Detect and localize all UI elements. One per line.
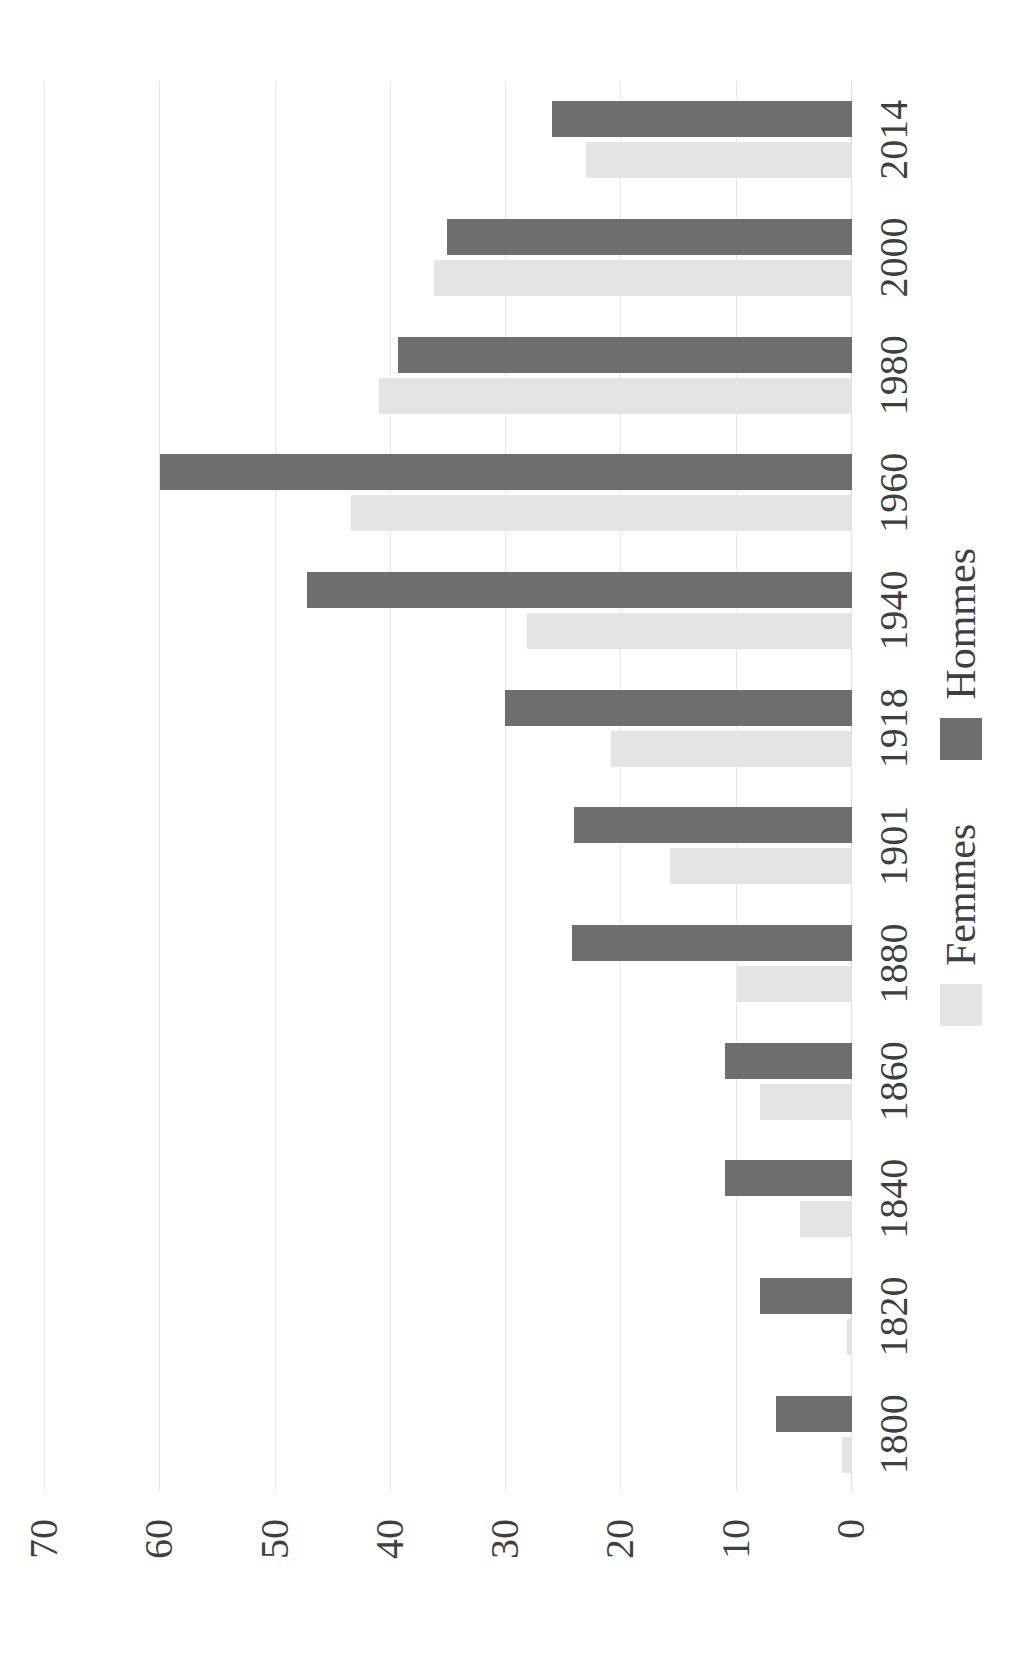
category-axis-label-1840: 1840 xyxy=(874,1140,914,1258)
category-axis-label-1820: 1820 xyxy=(874,1258,914,1376)
bar-hommes-1860 xyxy=(725,1043,852,1079)
bar-femmes-1820 xyxy=(847,1319,852,1355)
bar-hommes-1820 xyxy=(760,1278,852,1314)
bar-hommes-1960 xyxy=(160,454,852,490)
category-axis-label-1860: 1860 xyxy=(874,1022,914,1140)
bar-femmes-1940 xyxy=(527,613,852,649)
bar-group-2014: 2014 xyxy=(45,81,852,199)
bar-femmes-1880 xyxy=(737,966,852,1002)
value-axis-tick-label: 0 xyxy=(831,1519,871,1539)
bar-hommes-1980 xyxy=(398,337,852,373)
bar-group-1901: 1901 xyxy=(45,787,852,905)
category-axis-label-1918: 1918 xyxy=(874,669,914,787)
bar-hommes-1800 xyxy=(776,1396,852,1432)
bar-hommes-1940 xyxy=(307,572,852,608)
bar-femmes-1840 xyxy=(800,1202,852,1238)
bar-hommes-1918 xyxy=(505,690,852,726)
bar-femmes-1860 xyxy=(760,1084,852,1120)
chart-rotated-canvas: 706050403020100 180018201840186018801901… xyxy=(0,0,1034,1653)
legend-label: Hommes xyxy=(940,548,982,700)
value-axis-tick-label: 60 xyxy=(139,1519,179,1559)
bar-femmes-1918 xyxy=(611,731,852,767)
bar-hommes-1840 xyxy=(725,1160,852,1196)
bar-group-1960: 1960 xyxy=(45,434,852,552)
chart-legend: FemmesHommes xyxy=(940,81,982,1493)
bar-group-1980: 1980 xyxy=(45,316,852,434)
category-axis-label-1980: 1980 xyxy=(874,316,914,434)
legend-swatch-icon-femmes xyxy=(940,984,982,1026)
bar-hommes-2014 xyxy=(552,101,852,137)
value-axis-tick-label: 20 xyxy=(600,1519,640,1559)
bar-group-2000: 2000 xyxy=(45,199,852,317)
bar-femmes-1980 xyxy=(379,378,852,414)
category-axis-label-1880: 1880 xyxy=(874,905,914,1023)
bar-group-1880: 1880 xyxy=(45,905,852,1023)
bar-femmes-2000 xyxy=(434,260,852,296)
bar-group-1860: 1860 xyxy=(45,1022,852,1140)
value-axis-tick-label: 50 xyxy=(255,1519,295,1559)
bar-group-1820: 1820 xyxy=(45,1258,852,1376)
category-axis-label-1960: 1960 xyxy=(874,434,914,552)
legend-swatch-icon-hommes xyxy=(940,718,982,760)
legend-item-hommes[interactable]: Hommes xyxy=(940,548,982,760)
bar-femmes-1800 xyxy=(842,1437,852,1473)
legend-label: Femmes xyxy=(940,824,982,966)
category-axis-label-2014: 2014 xyxy=(874,81,914,199)
value-axis-tick-label: 10 xyxy=(716,1519,756,1559)
value-axis-tick-label: 70 xyxy=(24,1519,64,1559)
category-axis-label-1800: 1800 xyxy=(874,1375,914,1493)
value-axis-tick-label: 40 xyxy=(370,1519,410,1559)
value-axis-tick-label: 30 xyxy=(485,1519,525,1559)
bar-femmes-1960 xyxy=(351,496,852,532)
bar-hommes-1901 xyxy=(574,807,852,843)
category-axis-label-1940: 1940 xyxy=(874,552,914,670)
category-axis-label-2000: 2000 xyxy=(874,199,914,317)
bar-group-1940: 1940 xyxy=(45,552,852,670)
chart-figure: 706050403020100 180018201840186018801901… xyxy=(0,0,1034,1653)
plot-area: 706050403020100 180018201840186018801901… xyxy=(45,81,852,1493)
bar-group-1918: 1918 xyxy=(45,669,852,787)
category-axis-label-1901: 1901 xyxy=(874,787,914,905)
bar-group-1800: 1800 xyxy=(45,1375,852,1493)
legend-item-femmes[interactable]: Femmes xyxy=(940,824,982,1026)
bar-femmes-1901 xyxy=(670,849,852,885)
bar-group-1840: 1840 xyxy=(45,1140,852,1258)
bar-femmes-2014 xyxy=(586,143,852,179)
bar-hommes-1880 xyxy=(572,925,852,961)
bar-hommes-2000 xyxy=(447,219,852,255)
